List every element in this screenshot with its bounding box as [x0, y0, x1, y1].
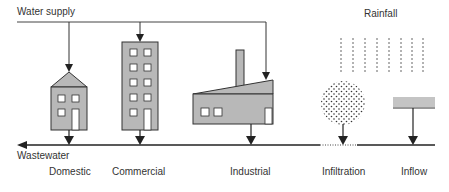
commercial-building-icon [122, 42, 158, 145]
rainfall-label: Rainfall [364, 8, 397, 19]
infiltration-label: Infiltration [322, 166, 365, 177]
domestic-house-icon [51, 72, 87, 145]
infiltration-soil-icon [321, 81, 365, 145]
industrial-label: Industrial [230, 166, 271, 177]
wastewater-sources-diagram [0, 0, 449, 192]
commercial-label: Commercial [112, 166, 165, 177]
inflow-surface-icon [393, 97, 435, 145]
wastewater-label: Wastewater [17, 150, 69, 161]
inflow-label: Inflow [401, 166, 427, 177]
wastewater-arrow-icon [17, 141, 27, 149]
domestic-label: Domestic [49, 166, 91, 177]
industrial-factory-icon [193, 50, 273, 145]
water-supply-label: Water supply [17, 6, 75, 17]
rainfall-icon [341, 38, 423, 74]
wastewater-line [17, 141, 435, 149]
